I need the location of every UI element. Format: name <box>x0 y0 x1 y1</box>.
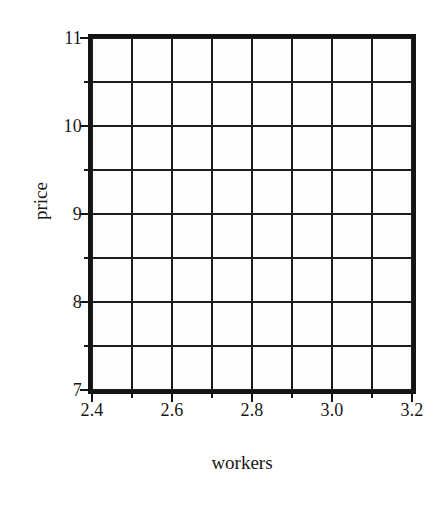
y-tick-label-3: 10 <box>42 116 82 137</box>
plot-area <box>88 34 416 394</box>
x-axis-title-text: workers <box>211 452 272 474</box>
x-tick-label-4: 3.2 <box>400 400 423 421</box>
x-tick-label-2: 2.8 <box>240 400 263 421</box>
x-tick-2.5 <box>131 391 133 398</box>
y-tick-7.5 <box>84 345 91 347</box>
chart-figure: 2.42.62.83.03.2 7891011 workers price <box>0 0 436 509</box>
y-tick-10.5 <box>84 81 91 83</box>
y-tick-label-4: 11 <box>42 28 82 49</box>
x-tick-label-3: 3.0 <box>320 400 343 421</box>
x-tick-2.7 <box>211 391 213 398</box>
y-tick-8.5 <box>84 257 91 259</box>
x-tick-label-0: 2.4 <box>80 400 103 421</box>
y-axis-title-text: price <box>30 182 52 220</box>
y-axis-title: price <box>16 190 66 212</box>
x-axis-title: workers <box>0 452 436 474</box>
gridlines <box>92 38 412 390</box>
y-tick-label-1: 8 <box>42 292 82 313</box>
y-tick-9.5 <box>84 169 91 171</box>
x-tick-2.9 <box>291 391 293 398</box>
x-tick-3.1 <box>371 391 373 398</box>
y-tick-label-0: 7 <box>42 380 82 401</box>
x-tick-label-1: 2.6 <box>160 400 183 421</box>
